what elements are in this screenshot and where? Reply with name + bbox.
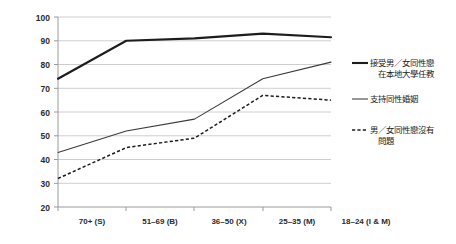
chart-canvas: 100 90 80 70 60 50 40 30 20 70+ (S) 51–6… [0, 0, 456, 244]
legend-label-no-problem-line2: 問題 [378, 136, 395, 146]
ytick-label-30: 30 [41, 179, 51, 189]
ytick-label-70: 70 [41, 84, 51, 94]
legend-label-no-problem-line1: 男／女同性戀沒有 [370, 125, 434, 135]
xtick-label-0: 70+ (S) [79, 217, 106, 226]
line-chart: 100 90 80 70 60 50 40 30 20 70+ (S) 51–6… [0, 0, 456, 244]
legend-label-acceptance-university-line1: 接受男／女同性戀 [370, 58, 435, 68]
ytick-label-80: 80 [41, 60, 51, 70]
ytick-label-60: 60 [41, 108, 51, 118]
xtick-label-3: 25–35 (M) [279, 217, 316, 226]
xtick-label-2: 36–50 (X) [211, 217, 246, 226]
xtick-label-1: 51–69 (B) [142, 217, 178, 226]
ytick-label-50: 50 [41, 131, 51, 141]
ytick-label-20: 20 [41, 203, 51, 213]
legend-label-acceptance-university-line2: 在本地大學任教 [378, 69, 435, 79]
xtick-label-4: 18–24 (I & M) [342, 217, 391, 226]
ytick-label-100: 100 [36, 13, 50, 23]
ytick-label-90: 90 [41, 36, 51, 46]
legend-label-same-sex-marriage-line1: 支持同性婚姻 [370, 94, 418, 104]
ytick-label-40: 40 [41, 155, 51, 165]
